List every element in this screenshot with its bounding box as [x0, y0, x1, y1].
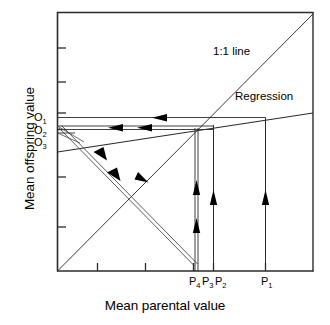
y-axis-title: Mean offspring value — [22, 49, 37, 249]
y-label-o3-sub: 3 — [43, 142, 47, 151]
y-label-o3: O3 — [34, 136, 47, 148]
y-label-o2: O2 — [34, 124, 47, 136]
vertical-line-p2 — [210, 125, 217, 271]
y-label-o2-base: O — [34, 124, 43, 136]
p3-arrowhead-upper — [193, 180, 200, 195]
x-label-p4: P4 — [189, 275, 201, 287]
horizontal-line-o2 — [58, 124, 214, 132]
y-label-o1-base: O — [34, 111, 43, 123]
one-to-one-line — [58, 14, 314, 271]
x-label-p2-sub: 2 — [222, 281, 226, 290]
o3-arrowhead — [108, 124, 123, 132]
x-label-p3: P3 — [202, 275, 214, 287]
y-label-o3-base: O — [34, 136, 43, 148]
vertical-line-p1 — [262, 118, 269, 272]
o2-arrowhead — [137, 124, 152, 132]
descending-diagonal-double-line — [59, 126, 198, 267]
x-label-p4-sub: 4 — [196, 281, 200, 290]
x-axis-ticks — [98, 263, 266, 271]
diag-arrow-down-1 — [135, 172, 149, 183]
regression-line-label: Regression — [235, 90, 293, 102]
parent-offspring-regression-figure: Mean parental value Mean offspring value… — [0, 0, 330, 325]
y-label-o1: O1 — [34, 111, 47, 123]
diagonal-arrowheads-down — [135, 172, 149, 183]
horizontal-line-o1 — [58, 114, 266, 122]
diagonal-stroke-a — [59, 128, 195, 266]
x-label-p2: P2 — [215, 275, 227, 287]
diagonal-arrowheads-up — [94, 147, 121, 181]
plot-canvas — [0, 0, 330, 325]
one-to-one-line-label: 1:1 line — [213, 45, 250, 57]
x-axis-title: Mean parental value — [0, 298, 330, 313]
y-axis-ticks — [58, 48, 67, 227]
o1-arrowhead — [152, 114, 167, 122]
p3-arrowhead-lower — [193, 218, 200, 233]
diagonal-stroke-b — [62, 126, 198, 265]
x-label-p1-sub: 1 — [268, 281, 272, 290]
vertical-line-p3 — [193, 128, 200, 271]
regression-line — [58, 113, 314, 152]
x-label-p3-sub: 3 — [209, 281, 213, 290]
diag-arrow-up-1 — [94, 147, 108, 161]
p2-arrowhead — [210, 190, 217, 205]
x-label-p1: P1 — [261, 275, 273, 287]
p1-arrowhead — [262, 190, 269, 205]
